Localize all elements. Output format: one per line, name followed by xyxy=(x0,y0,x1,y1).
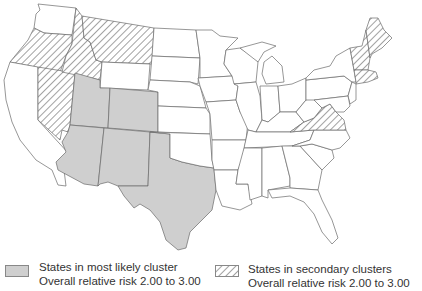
legend-label-secondary-clusters: States in secondary clusters Overall rel… xyxy=(248,262,410,290)
legend-label-line1: States in most likely cluster xyxy=(39,260,201,274)
state-south-dakota xyxy=(150,56,200,84)
legend-label-line2: Overall relative risk 2.00 to 3.00 xyxy=(39,274,201,288)
legend-label-line2: Overall relative risk 2.00 to 3.00 xyxy=(248,276,410,290)
legend-label-most-likely-cluster: States in most likely cluster Overall re… xyxy=(39,260,201,288)
legend-swatch-most-likely-cluster xyxy=(5,265,29,277)
state-new-york xyxy=(306,48,356,82)
state-florida xyxy=(268,188,338,244)
state-kansas xyxy=(158,106,210,134)
state-iowa xyxy=(198,76,238,102)
legend-label-line1: States in secondary clusters xyxy=(248,262,410,276)
state-north-dakota xyxy=(152,28,200,58)
legend-swatch-secondary-clusters xyxy=(215,265,239,277)
state-massachusetts-ct-ri xyxy=(354,70,378,84)
state-wyoming xyxy=(100,62,150,90)
state-washington xyxy=(34,4,76,35)
state-maine xyxy=(366,18,392,58)
state-new-mexico xyxy=(98,128,150,186)
state-colorado xyxy=(108,88,158,132)
us-cluster-map xyxy=(0,0,422,252)
